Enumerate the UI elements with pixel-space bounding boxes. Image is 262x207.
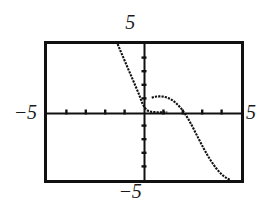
- calculator-screen: 5 −5 −5 5: [0, 0, 262, 207]
- curve-branch-right: [152, 96, 231, 180]
- curve-branch-left: [118, 44, 168, 112]
- function-traces: [118, 44, 231, 180]
- plot-area: [0, 0, 262, 207]
- axes-group: [47, 44, 241, 180]
